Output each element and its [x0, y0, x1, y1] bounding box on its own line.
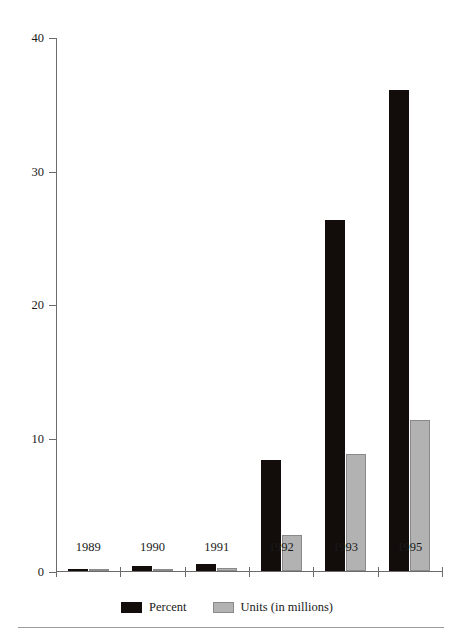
x-tick [249, 567, 250, 577]
footer-divider [18, 627, 444, 628]
y-tick: 20 [49, 305, 57, 306]
x-tick [185, 567, 186, 577]
bar-1991-percent [196, 564, 216, 571]
x-tick-label: 1993 [313, 539, 377, 555]
bar-1990-units [153, 569, 173, 571]
x-tick [313, 567, 314, 577]
x-tick-label: 1995 [378, 539, 442, 555]
bar-chart: 010203040 198919901991199219931995 Perce… [0, 0, 454, 637]
x-tick-label: 1989 [56, 539, 120, 555]
y-tick: 40 [49, 38, 57, 39]
x-tick [56, 567, 57, 577]
y-tick-label: 0 [38, 563, 44, 581]
x-tick [442, 567, 443, 577]
bar-1995-percent [389, 90, 409, 571]
y-tick: 30 [49, 172, 57, 173]
x-tick-label: 1991 [185, 539, 249, 555]
percent-swatch [121, 602, 142, 613]
x-tick [120, 567, 121, 577]
bar-1989-percent [68, 569, 88, 571]
bar-1993-percent [325, 220, 345, 571]
y-tick-label: 20 [32, 296, 45, 314]
legend-item-units[interactable]: Units (in millions) [213, 600, 333, 614]
bar-1990-percent [132, 566, 152, 571]
y-tick-label: 10 [32, 430, 45, 448]
units-swatch [213, 602, 234, 613]
chart-legend: PercentUnits (in millions) [0, 600, 454, 614]
x-tick [378, 567, 379, 577]
legend-label: Percent [149, 600, 186, 614]
x-tick-label: 1990 [120, 539, 184, 555]
plot-area: 010203040 [56, 38, 442, 572]
bar-1989-units [89, 569, 109, 571]
y-tick: 10 [49, 439, 57, 440]
x-tick-label: 1992 [249, 539, 313, 555]
bar-1991-units [217, 568, 237, 571]
y-tick-label: 40 [32, 29, 45, 47]
legend-label: Units (in millions) [241, 600, 333, 614]
y-tick-label: 30 [32, 163, 45, 181]
legend-item-percent[interactable]: Percent [121, 600, 186, 614]
